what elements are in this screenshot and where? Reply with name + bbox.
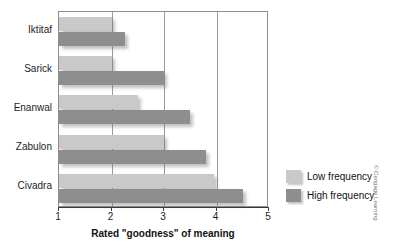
x-axis-tick-label: 1: [46, 211, 70, 222]
x-axis-tick-label: 4: [204, 211, 228, 222]
bar-high-frequency: [59, 150, 206, 164]
chart-legend: Low frequencyHigh frequency: [286, 167, 374, 205]
bar-group: [59, 130, 267, 169]
plot-area: [58, 11, 268, 207]
bar-low-frequency: [59, 95, 138, 109]
bar-low-frequency: [59, 174, 214, 188]
x-axis-tick-label: 5: [256, 211, 280, 222]
category-label-zabulon: Zabulon: [0, 141, 52, 152]
legend-item: Low frequency: [286, 167, 374, 186]
bar-low-frequency: [59, 17, 112, 31]
bar-group: [59, 12, 267, 51]
bar-high-frequency: [59, 71, 164, 85]
bar-high-frequency: [59, 32, 125, 46]
x-axis-tick-label: 2: [99, 211, 123, 222]
category-label-sarick: Sarick: [0, 63, 52, 74]
bar-high-frequency: [59, 110, 190, 124]
bar-low-frequency: [59, 135, 164, 149]
bar-low-frequency: [59, 56, 112, 70]
category-label-enanwal: Enanwal: [0, 102, 52, 113]
bar-high-frequency: [59, 189, 243, 203]
category-label-iktitaf: Iktitaf: [0, 24, 52, 35]
legend-swatch-low-frequency: [286, 170, 301, 183]
legend-item: High frequency: [286, 186, 374, 205]
legend-label: Low frequency: [307, 171, 372, 182]
legend-swatch-high-frequency: [286, 189, 301, 202]
bar-chart-figure: Rated "goodness" of meaning Low frequenc…: [0, 0, 395, 252]
x-axis-title: Rated "goodness" of meaning: [58, 228, 268, 239]
copyright-credit: © Cengage Learning: [373, 165, 379, 220]
legend-label: High frequency: [307, 190, 374, 201]
bar-group: [59, 169, 267, 208]
category-label-civadra: Civadra: [0, 180, 52, 191]
x-axis-tick-label: 3: [151, 211, 175, 222]
bar-group: [59, 90, 267, 129]
bar-group: [59, 51, 267, 90]
